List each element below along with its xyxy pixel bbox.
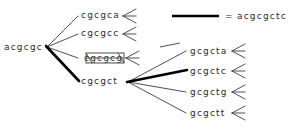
node-gcgctc: gcgctc bbox=[190, 66, 227, 77]
node-root-acgcgc: acgcgc bbox=[4, 42, 43, 53]
node-gcgctt: gcgctt bbox=[190, 108, 226, 119]
node-gcgcta: gcgcta bbox=[190, 46, 228, 57]
leaf-fan-cgcgcg bbox=[126, 51, 139, 65]
leaf-fan-gcgctg bbox=[232, 85, 245, 99]
leaf-fan-gcgcta bbox=[232, 44, 245, 58]
node-cgcgca: cgcgca bbox=[81, 10, 120, 21]
diagram-canvas: acgcgc cgcgca cgcgcc cgcgcg cgcgct gcgct… bbox=[0, 0, 301, 130]
leaf-fan-gcgctt bbox=[232, 106, 245, 120]
leaf-fan-gcgctc bbox=[232, 64, 245, 78]
legend-equals-sign: = bbox=[225, 11, 234, 21]
edge-root-to-cgcgct-highlighted bbox=[46, 46, 79, 81]
edge-cgcgct-to-gcgcta bbox=[128, 51, 186, 82]
leaf-fan-cgcgcc bbox=[123, 27, 136, 41]
node-cgcgct: cgcgct bbox=[81, 76, 118, 87]
node-cgcgcg: cgcgcg bbox=[84, 53, 123, 64]
edge-root-to-cgcgca bbox=[47, 16, 78, 47]
legend-sequence-label: acgcgctc bbox=[237, 11, 287, 21]
node-cgcgcc: cgcgcc bbox=[81, 28, 119, 39]
edge-root-to-cgcgcc bbox=[47, 34, 78, 47]
edge-upper-branch-stub bbox=[160, 43, 180, 47]
leaf-fan-cgcgca bbox=[123, 9, 136, 23]
node-gcgctg: gcgctg bbox=[190, 87, 228, 98]
edge-cgcgct-to-gcgctc-highlighted bbox=[127, 70, 187, 82]
